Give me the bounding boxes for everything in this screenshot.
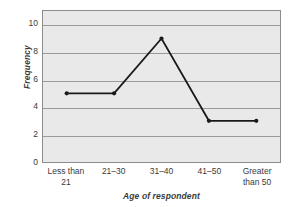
x-axis-tick-labels: Less than2121–3031–4041–50Greaterthan 50 (42, 166, 281, 190)
y-axis-tick-label: 6 (16, 75, 38, 84)
y-axis-tick-label: 10 (16, 19, 38, 28)
x-axis-tick-label: Less than21 (42, 166, 90, 190)
y-axis-tick-label: 2 (16, 130, 38, 139)
x-axis-tick-label-line: 31–40 (138, 166, 186, 177)
y-axis-tick-labels: 0246810 (10, 0, 38, 207)
x-axis-tick-label: Greaterthan 50 (233, 166, 281, 190)
x-axis-tick-label-line: Greater (233, 166, 281, 177)
x-axis-tick-label-line: 21 (42, 177, 90, 188)
x-axis-tick-label: 41–50 (185, 166, 233, 190)
data-point-marker: 41–50: 3 (207, 119, 211, 123)
y-axis-tick-label: 4 (16, 102, 38, 111)
plot-area: Less than 21: 521–30: 531–40: 941–50: 3G… (42, 10, 281, 163)
x-axis-tick-label: 31–40 (138, 166, 186, 190)
data-point-marker: 21–30: 5 (112, 91, 116, 95)
x-axis-tick-label-line: 41–50 (185, 166, 233, 177)
x-axis-tick-label-line: than 50 (233, 177, 281, 188)
data-point-marker: Less than 21: 5 (65, 91, 69, 95)
x-axis-title: Age of respondent (42, 191, 281, 201)
data-series-frequency: Less than 21: 521–30: 531–40: 941–50: 3G… (43, 11, 280, 162)
x-axis-tick-label: 21–30 (90, 166, 138, 190)
data-point-marker: 31–40: 9 (159, 36, 163, 40)
data-point-marker: Greater than 50: 3 (254, 119, 258, 123)
y-axis-tick-label: 8 (16, 47, 38, 56)
x-axis-tick-label-line: 21–30 (90, 166, 138, 177)
x-axis-tick-label-line: Less than (42, 166, 90, 177)
line-chart-figure: Frequency 0246810 Less than 21: 521–30: … (0, 0, 290, 207)
y-axis-tick-label: 0 (16, 158, 38, 167)
series-line (67, 38, 257, 120)
